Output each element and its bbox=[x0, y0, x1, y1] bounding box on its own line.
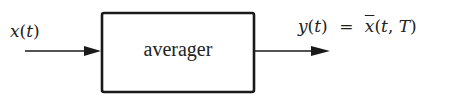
output-rhs-comma: , bbox=[388, 16, 399, 36]
block-label: averager bbox=[102, 38, 254, 61]
output-rhs-var: x bbox=[365, 16, 375, 36]
output-arrowhead-icon bbox=[311, 46, 330, 56]
output-lhs-close: ) bbox=[321, 16, 328, 36]
equals-sign: = bbox=[339, 16, 353, 36]
output-signal-label: y(t) = x(t, T) bbox=[298, 16, 417, 36]
output-rhs-close: ) bbox=[410, 16, 417, 36]
block-diagram: x(t) averager y(t) = x(t, T) bbox=[0, 0, 451, 111]
input-var: x bbox=[10, 21, 20, 41]
output-lhs-var: y bbox=[298, 16, 308, 36]
output-rhs-t: t bbox=[381, 16, 388, 36]
input-arrowhead-icon bbox=[84, 46, 101, 56]
input-signal-label: x(t) bbox=[10, 21, 40, 41]
input-arg-close: ) bbox=[33, 21, 40, 41]
output-rhs-T: T bbox=[399, 16, 410, 36]
